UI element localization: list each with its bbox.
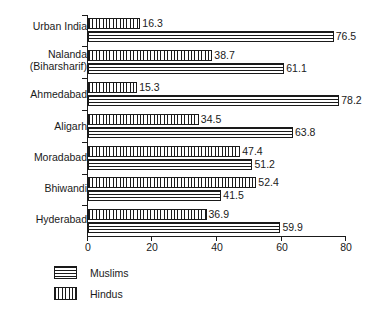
bar-value-muslims-urban-india: 76.5: [336, 31, 356, 42]
category-label-aligarh: Aligarh: [3, 121, 87, 133]
bar-muslims-hyderabad[interactable]: [88, 222, 280, 233]
bar-value-hindus-ahmedabad: 15.3: [139, 82, 159, 93]
category-label-urban-india: Urban India: [3, 21, 87, 33]
bar-value-muslims-aligarh: 63.8: [295, 127, 315, 138]
x-axis-label-60: 60: [276, 241, 288, 253]
legend-label-muslims: Muslims: [90, 267, 129, 279]
y-axis-tick: [82, 142, 88, 143]
x-axis-label-20: 20: [146, 241, 158, 253]
y-axis-line: [87, 15, 88, 237]
bar-value-hindus-aligarh: 34.5: [201, 114, 221, 125]
y-axis-tick: [82, 15, 88, 16]
legend-item-muslims[interactable]: Muslims: [54, 262, 129, 283]
y-axis-tick: [82, 110, 88, 111]
x-axis-label-0: 0: [85, 241, 91, 253]
category-label-nalanda-biharsharif: Nalanda (Biharsharif): [3, 49, 87, 72]
bar-value-hindus-hyderabad: 36.9: [209, 209, 229, 220]
bar-hindus-aligarh[interactable]: [88, 114, 199, 125]
bar-muslims-moradabad[interactable]: [88, 159, 252, 170]
bar-muslims-urban-india[interactable]: [88, 31, 334, 42]
bar-value-muslims-moradabad: 51.2: [254, 159, 274, 170]
bar-value-hindus-nalanda: 38.7: [214, 50, 234, 61]
x-axis-label-80: 80: [340, 241, 352, 253]
legend-swatch-hindus-icon: [54, 287, 77, 300]
y-axis-tick: [82, 205, 88, 206]
bar-value-hindus-moradabad: 47.4: [242, 146, 262, 157]
x-axis-label-40: 40: [211, 241, 223, 253]
bar-hindus-bhiwandi[interactable]: [88, 177, 256, 188]
legend-label-hindus: Hindus: [90, 288, 123, 300]
bar-hindus-nalanda[interactable]: [88, 50, 212, 61]
y-axis-tick: [82, 78, 88, 79]
bar-value-muslims-hyderabad: 59.9: [282, 222, 302, 233]
bar-value-muslims-bhiwandi: 41.5: [223, 190, 243, 201]
bar-muslims-aligarh[interactable]: [88, 127, 293, 138]
bar-value-muslims-nalanda: 61.1: [286, 63, 306, 74]
bar-muslims-bhiwandi[interactable]: [88, 190, 221, 201]
category-label-hyderabad: Hyderabad: [3, 214, 87, 226]
bar-hindus-ahmedabad[interactable]: [88, 82, 137, 93]
chart-legend: Muslims Hindus: [54, 262, 129, 304]
bar-muslims-ahmedabad[interactable]: [88, 95, 339, 106]
category-label-ahmedabad: Ahmedabad: [3, 89, 87, 101]
legend-item-hindus[interactable]: Hindus: [54, 283, 129, 304]
bar-value-hindus-urban-india: 16.3: [142, 18, 162, 29]
y-axis-tick: [82, 174, 88, 175]
bar-chart: Urban India Nalanda (Biharsharif) Ahmeda…: [0, 0, 381, 318]
bar-muslims-nalanda[interactable]: [88, 63, 284, 74]
bar-value-muslims-ahmedabad: 78.2: [341, 95, 361, 106]
legend-swatch-muslims-icon: [54, 266, 77, 279]
bar-hindus-hyderabad[interactable]: [88, 209, 207, 220]
category-label-bhiwandi: Bhiwandi: [3, 183, 87, 195]
bar-value-hindus-bhiwandi: 52.4: [258, 177, 278, 188]
y-axis-tick: [82, 46, 88, 47]
bar-hindus-urban-india[interactable]: [88, 18, 140, 29]
bar-hindus-moradabad[interactable]: [88, 146, 240, 157]
category-label-moradabad: Moradabad: [3, 152, 87, 164]
